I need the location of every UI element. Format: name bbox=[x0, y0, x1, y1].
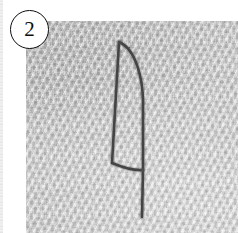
wall-photo bbox=[26, 21, 238, 233]
figure-number-label: 2 bbox=[24, 19, 35, 40]
blade-outline-drawing bbox=[26, 21, 238, 233]
blade-right-curved-edge-path bbox=[119, 42, 143, 170]
figure-number-badge: 2 bbox=[10, 10, 49, 49]
blade-smudge-left-path bbox=[112, 42, 143, 170]
blade-smudge-path bbox=[119, 42, 143, 217]
figure-panel: 2 bbox=[0, 0, 238, 233]
adjacent-panel-sliver bbox=[0, 0, 3, 233]
